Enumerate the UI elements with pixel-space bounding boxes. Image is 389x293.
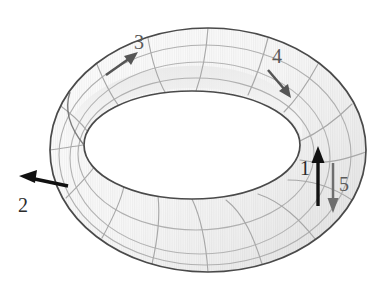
arrow-label-2: 2 bbox=[18, 195, 28, 215]
torus-illustration bbox=[0, 0, 389, 293]
torus-hole bbox=[84, 91, 300, 199]
arrow-label-4: 4 bbox=[272, 46, 282, 66]
arrow-label-1: 1 bbox=[300, 158, 310, 178]
arrow-label-5: 5 bbox=[339, 174, 349, 194]
torus-diagram-figure: 1 2 3 4 5 bbox=[0, 0, 389, 293]
arrow-label-3: 3 bbox=[134, 32, 144, 52]
